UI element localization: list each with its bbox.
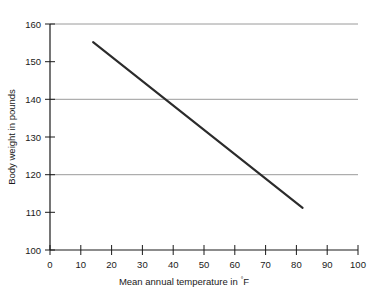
y-tick-label-160: 160 [25,19,41,30]
x-tick-label-10: 10 [76,259,87,270]
line-chart: 100 110 120 130 140 150 160 0 10 20 30 4… [0,0,368,299]
x-tick-label-20: 20 [106,259,117,270]
y-tick-label-120: 120 [25,169,41,180]
x-axis-unit: F [243,276,249,287]
x-tick-label-40: 40 [168,259,179,270]
chart-background [0,0,368,299]
chart-container: 100 110 120 130 140 150 160 0 10 20 30 4… [0,0,368,299]
x-tick-label-60: 60 [230,259,241,270]
x-tick-label-0: 0 [47,259,52,270]
x-tick-label-100: 100 [350,259,366,270]
y-axis-title: Body weight in pounds [6,89,17,185]
x-tick-label-70: 70 [260,259,271,270]
y-tick-label-100: 100 [25,245,41,256]
y-axis-title-text: Body weight in pounds [6,89,17,185]
y-tick-label-150: 150 [25,56,41,67]
x-axis-title: Mean annual temperature in°F [119,276,249,288]
x-tick-label-30: 30 [137,259,148,270]
x-tick-label-80: 80 [291,259,302,270]
x-axis-title-text: Mean annual temperature in [119,276,238,287]
y-tick-label-130: 130 [25,132,41,143]
svg-text:Mean annual temperature in°F: Mean annual temperature in°F [119,276,249,288]
y-tick-label-110: 110 [26,207,41,218]
x-tick-label-50: 50 [199,259,210,270]
x-tick-label-90: 90 [322,259,333,270]
y-tick-label-140: 140 [25,94,41,105]
